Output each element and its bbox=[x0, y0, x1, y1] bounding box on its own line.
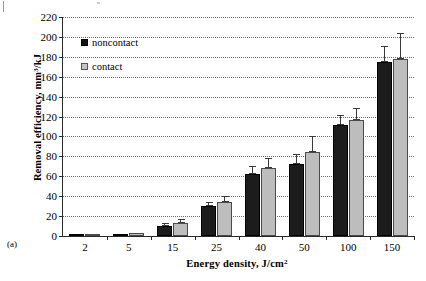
bar-group bbox=[289, 17, 320, 236]
bar-noncontact bbox=[157, 226, 172, 236]
x-tick-label: 15 bbox=[167, 241, 178, 253]
y-tick-mark bbox=[59, 57, 63, 58]
y-tick-label: 40 bbox=[46, 190, 57, 202]
x-axis-label-exponent: 2 bbox=[284, 258, 288, 266]
error-bar-contact bbox=[312, 136, 313, 152]
y-axis-label-main: Removal efficiency, mm bbox=[32, 72, 43, 181]
y-tick-label: 160 bbox=[41, 71, 58, 83]
error-bar-contact bbox=[268, 158, 269, 168]
bar-noncontact bbox=[245, 174, 260, 236]
y-tick-mark bbox=[59, 196, 63, 197]
bar-group bbox=[333, 17, 364, 236]
legend-label-contact: contact bbox=[92, 61, 122, 72]
legend-swatch-contact bbox=[81, 63, 88, 70]
error-bar-contact bbox=[400, 33, 401, 59]
y-tick-label: 200 bbox=[41, 31, 58, 43]
y-tick-label: 60 bbox=[46, 170, 57, 182]
y-tick-label: 80 bbox=[46, 150, 57, 162]
bar-contact bbox=[173, 223, 188, 236]
bar-noncontact bbox=[377, 62, 392, 236]
bar-group bbox=[245, 17, 276, 236]
y-axis-label-exponent: 3 bbox=[32, 68, 40, 72]
x-tick-label: 100 bbox=[340, 241, 357, 253]
y-tick-mark bbox=[59, 176, 63, 177]
error-bar-noncontact bbox=[296, 154, 297, 164]
x-tick-label: 150 bbox=[384, 241, 401, 253]
y-tick-mark bbox=[59, 37, 63, 38]
bar-noncontact bbox=[201, 206, 216, 236]
y-tick-label: 140 bbox=[41, 91, 58, 103]
bar-contact bbox=[393, 59, 408, 236]
y-tick-label: 100 bbox=[41, 130, 58, 142]
error-bar-contact bbox=[356, 108, 357, 120]
x-tick-mark bbox=[282, 236, 283, 240]
bar-contact bbox=[217, 202, 232, 236]
legend-item-noncontact: noncontact bbox=[81, 37, 138, 48]
error-bar-contact bbox=[180, 219, 181, 223]
error-bar-noncontact bbox=[252, 166, 253, 174]
y-tick-label: 220 bbox=[41, 11, 58, 23]
bar-contact bbox=[129, 233, 144, 236]
error-bar-noncontact bbox=[164, 223, 165, 226]
x-tick-mark bbox=[326, 236, 327, 240]
legend-label-noncontact: noncontact bbox=[92, 37, 138, 48]
y-tick-label: 180 bbox=[41, 51, 58, 63]
y-tick-mark bbox=[59, 17, 63, 18]
legend-item-contact: contact bbox=[81, 61, 122, 72]
y-tick-mark bbox=[59, 117, 63, 118]
x-tick-label: 25 bbox=[211, 241, 222, 253]
legend-swatch-noncontact bbox=[81, 39, 88, 46]
panel-tag: (a) bbox=[7, 239, 17, 249]
x-axis-label-main: Energy density, J/cm bbox=[186, 258, 284, 269]
x-tick-mark bbox=[239, 236, 240, 240]
y-tick-label: 120 bbox=[41, 111, 58, 123]
error-bar-contact bbox=[224, 196, 225, 202]
x-tick-mark bbox=[107, 236, 108, 240]
error-bar-noncontact bbox=[384, 46, 385, 62]
error-bar-noncontact bbox=[208, 202, 209, 206]
x-tick-mark bbox=[195, 236, 196, 240]
x-tick-label: 40 bbox=[255, 241, 266, 253]
bar-group bbox=[69, 17, 100, 236]
x-tick-mark bbox=[414, 236, 415, 240]
y-tick-mark bbox=[59, 77, 63, 78]
bar-group bbox=[157, 17, 188, 236]
y-tick-mark bbox=[59, 236, 63, 237]
x-tick-mark bbox=[370, 236, 371, 240]
bar-group bbox=[377, 17, 408, 236]
x-tick-label: 5 bbox=[126, 241, 132, 253]
y-tick-label: 0 bbox=[52, 230, 58, 242]
x-tick-label: 50 bbox=[299, 241, 310, 253]
y-tick-mark bbox=[59, 97, 63, 98]
y-tick-label: 20 bbox=[46, 210, 57, 222]
y-tick-mark bbox=[59, 136, 63, 137]
bar-group bbox=[201, 17, 232, 236]
error-bar-noncontact bbox=[340, 115, 341, 125]
bar-noncontact bbox=[289, 164, 304, 236]
bar-contact bbox=[261, 168, 276, 236]
y-tick-mark bbox=[59, 156, 63, 157]
x-axis-label: Energy density, J/cm2 bbox=[62, 258, 412, 269]
x-tick-label: 2 bbox=[82, 241, 88, 253]
y-tick-mark bbox=[59, 216, 63, 217]
bar-chart-figure: Removal efficiency, mm3/kJ Energy densit… bbox=[0, 0, 426, 281]
x-tick-mark bbox=[151, 236, 152, 240]
bar-contact bbox=[305, 152, 320, 236]
bar-group bbox=[113, 17, 144, 236]
bar-contact bbox=[349, 120, 364, 236]
plot-area: 020406080100120140160180200220 251525405… bbox=[62, 17, 414, 237]
bar-noncontact bbox=[69, 234, 84, 236]
bar-noncontact bbox=[333, 125, 348, 236]
bar-contact bbox=[85, 234, 100, 236]
bar-noncontact bbox=[113, 234, 128, 236]
